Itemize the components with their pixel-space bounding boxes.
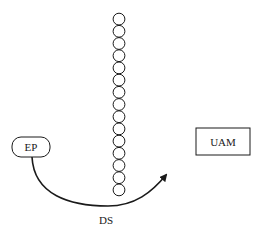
chain-bead — [113, 147, 125, 159]
chain-bead — [113, 172, 125, 184]
chain-bead — [113, 86, 125, 98]
chain-bead — [113, 123, 125, 135]
chain-bead — [113, 99, 125, 111]
edge-ds-label: DS — [99, 214, 113, 226]
chain-bead — [113, 111, 125, 123]
chain-bead — [113, 74, 125, 86]
chain-bead — [113, 50, 125, 62]
chain-bead — [113, 38, 125, 50]
chain-bead — [113, 184, 125, 196]
chain-bead — [113, 160, 125, 172]
chain-bead — [113, 62, 125, 74]
diagram-canvas: EP UAM DS — [0, 0, 265, 234]
node-uam-label: UAM — [210, 136, 236, 148]
bead-chain — [113, 13, 125, 196]
edge-ds-arrow — [32, 157, 166, 206]
chain-bead — [113, 25, 125, 37]
chain-bead — [113, 13, 125, 25]
chain-bead — [113, 135, 125, 147]
node-uam: UAM — [196, 128, 250, 155]
node-ep-label: EP — [25, 141, 38, 153]
node-ep: EP — [12, 137, 50, 157]
